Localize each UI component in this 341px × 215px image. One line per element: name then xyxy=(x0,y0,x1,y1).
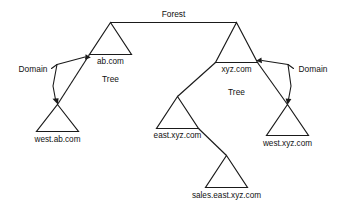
edge-xyz-to-east-xyz xyxy=(178,63,216,97)
node-triangle-sales-east-xyz-com xyxy=(206,156,248,188)
annotation-arrow-left-domain-to-west-ab xyxy=(53,65,57,100)
label-node-east-xyz-com: east.xyz.com xyxy=(154,131,202,140)
arrowhead-left-domain-to-west-ab xyxy=(53,98,59,104)
label-node-ab-com: ab.com xyxy=(97,57,124,66)
node-triangle-xyz-com xyxy=(216,23,258,63)
node-triangle-west-xyz-com xyxy=(267,105,309,136)
label-tree-right: Tree xyxy=(228,87,245,97)
forest-diagram: Forest Domain Domain ab.com Tree west.ab… xyxy=(0,0,341,215)
label-node-sales-east-xyz-com: sales.east.xyz.com xyxy=(192,191,261,200)
forest-diagram-canvas: Forest Domain Domain ab.com Tree west.ab… xyxy=(0,0,341,215)
node-triangle-east-xyz-com xyxy=(157,97,199,129)
label-node-west-xyz-com: west.xyz.com xyxy=(262,139,312,148)
label-domain-left: Domain xyxy=(19,64,48,74)
label-forest: Forest xyxy=(162,9,186,19)
annotation-arrow-right-domain-to-west-xyz xyxy=(288,65,291,100)
edge-ab-to-west-ab xyxy=(58,55,90,105)
edge-east-xyz-to-sales xyxy=(199,129,227,156)
label-node-xyz-com: xyz.com xyxy=(221,65,251,74)
node-triangle-west-ab-com xyxy=(37,105,79,132)
label-node-west-ab-com: west.ab.com xyxy=(34,135,81,144)
label-tree-left: Tree xyxy=(102,74,119,84)
label-domain-right: Domain xyxy=(299,64,328,74)
node-triangle-ab-com xyxy=(90,23,132,55)
edge-xyz-to-west-xyz xyxy=(258,63,288,105)
